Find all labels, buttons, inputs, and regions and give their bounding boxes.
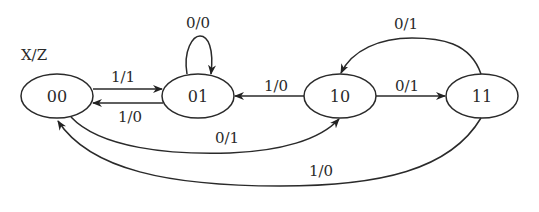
edge-11-00-label: 1/0 (309, 164, 333, 179)
edge-01-00-label: 1/0 (118, 110, 142, 125)
diagram-canvas (0, 0, 539, 212)
state-01-label: 01 (188, 89, 208, 105)
edge-10-01-label: 1/0 (264, 79, 288, 94)
state-10-label: 10 (330, 89, 350, 105)
state-00-label: 00 (47, 89, 67, 105)
edge-01-self-label: 0/0 (186, 16, 210, 31)
edge-11-10 (341, 38, 481, 74)
state-11-label: 11 (472, 89, 492, 105)
edge-00-10 (71, 117, 339, 153)
edge-11-10-label: 0/1 (394, 17, 418, 32)
edge-00-01-label: 1/1 (111, 70, 135, 85)
legend-label: X/Z (21, 48, 47, 63)
edge-01-self (186, 36, 212, 74)
edge-11-00 (58, 118, 481, 186)
edge-00-10-label: 0/1 (215, 131, 239, 146)
edge-10-11-label: 0/1 (395, 79, 419, 94)
